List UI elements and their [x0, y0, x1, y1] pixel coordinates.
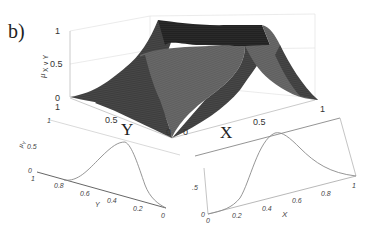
mu-x-plot: .5 0 0 0.2 0.4 0.6 0.8 1 X — [192, 118, 356, 224]
y-tick-1: 1 — [55, 102, 60, 112]
mu-x-xtick-0.8: 0.8 — [321, 190, 331, 197]
y-axis-label: Y — [121, 120, 133, 139]
x-tick-0.5: 0.5 — [253, 117, 266, 127]
x-tick-0: 0 — [183, 127, 188, 137]
mu-x-xtick-0.2: 0.2 — [232, 212, 242, 219]
mu-x-xtick-1: 1 — [352, 182, 356, 189]
mu-y-plot: 1 0.5 0 μ Y 1 0.8 0.6 0.4 0.2 0 Y — [16, 117, 180, 219]
mu-x-x-axis — [208, 176, 356, 214]
svg-text:Y: Y — [21, 139, 28, 145]
mu-y-ytick-1: 1 — [47, 117, 51, 124]
mu-x-ytick-0.5: .5 — [192, 184, 198, 191]
z-tick-1: 1 — [55, 26, 60, 36]
mu-x-xlabel: X — [281, 210, 288, 219]
mu-x-xtick-0.6: 0.6 — [292, 197, 302, 204]
mu-y-ytick-0: 0 — [28, 167, 32, 174]
x-tick-1: 1 — [320, 104, 325, 114]
mu-y-xlabel: Y — [95, 201, 101, 208]
surface-plot: 1 0.5 0 μ X ∨ Y 1 0.5 0 0 0.5 1 Y X — [37, 14, 325, 142]
x-axis-label: X — [220, 123, 232, 142]
mu-y-xtick-0.2: 0.2 — [133, 205, 143, 212]
mu-y-xtick-1: 1 — [31, 175, 35, 182]
y-tick-0: 0 — [166, 127, 171, 137]
mu-x-curve — [208, 133, 356, 214]
mu-x-ytick-0: 0 — [201, 211, 205, 218]
mu-x-xtick-0.4: 0.4 — [262, 205, 272, 212]
svg-text:μ: μ — [37, 73, 47, 79]
z-tick-0.5: 0.5 — [50, 59, 63, 69]
mu-x-xtick-0: 0 — [206, 217, 210, 224]
mu-y-ylabel: μ Y — [16, 138, 27, 149]
mu-y-ytick-0.5: 0.5 — [27, 143, 37, 150]
mu-y-xtick-0: 0 — [161, 212, 165, 219]
mu-y-x-axis — [37, 172, 166, 208]
mu-y-xtick-0.8: 0.8 — [54, 182, 64, 189]
figure: b) — [0, 0, 366, 232]
mu-y-xtick-0.4: 0.4 — [107, 197, 117, 204]
z-axis-label: μ X ∨ Y — [37, 54, 49, 79]
panel-label: b) — [8, 20, 25, 43]
svg-text:X ∨ Y: X ∨ Y — [42, 54, 49, 72]
mu-y-xtick-0.6: 0.6 — [80, 190, 90, 197]
y-tick-0.5: 0.5 — [105, 115, 118, 125]
